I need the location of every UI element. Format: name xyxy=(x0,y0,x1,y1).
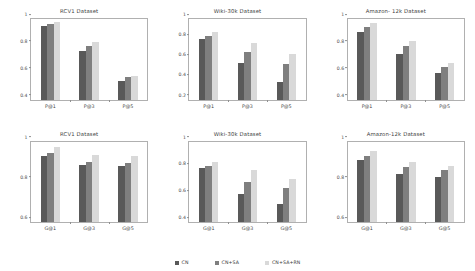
axes: 0.60.81G@1G@3G@5 xyxy=(347,141,465,224)
y-axis-tick-label: 0.8 xyxy=(337,38,348,43)
y-axis-tick-label: 0.6 xyxy=(337,215,348,220)
y-axis-tick-label: 0.8 xyxy=(179,32,190,37)
bar xyxy=(289,179,295,222)
x-axis-tick-mark xyxy=(70,100,71,102)
axes: 0.40.60.81P@1P@3P@5 xyxy=(347,18,465,101)
x-axis-tick-label: G@3 xyxy=(242,226,254,231)
y-axis-tick-label: 0.2 xyxy=(179,92,190,97)
y-axis-tick-label: 0.6 xyxy=(179,188,190,193)
x-axis-tick-mark xyxy=(228,222,229,224)
panel-grid: RCV1 Dataset 0.40.60.81P@1P@3P@5 Wiki-30… xyxy=(0,0,475,245)
x-axis-tick-mark xyxy=(109,100,110,102)
bar xyxy=(54,147,60,222)
axes: 0.60.81G@1G@3G@5 xyxy=(30,141,148,224)
legend-label: CN xyxy=(182,260,189,265)
x-axis-tick-label: G@3 xyxy=(83,226,95,231)
x-axis-tick-label: P@5 xyxy=(281,104,292,109)
y-axis-tick-label: 1 xyxy=(183,134,189,139)
x-axis-tick-mark xyxy=(70,222,71,224)
legend-item: CN+SA xyxy=(215,260,239,265)
x-axis-tick-label: P@3 xyxy=(242,104,253,109)
x-axis-tick-mark xyxy=(386,100,387,102)
legend-label: CN+SA+RN xyxy=(272,260,300,265)
plot-area: 0.60.81G@1G@3G@5 xyxy=(347,141,465,224)
bar xyxy=(131,76,137,100)
figure-root: RCV1 Dataset 0.40.60.81P@1P@3P@5 Wiki-30… xyxy=(0,0,475,271)
legend-swatch-icon xyxy=(215,261,219,265)
y-axis-tick-label: 0.6 xyxy=(337,65,348,70)
plot-area: 0.40.60.81P@1P@3P@5 xyxy=(30,18,148,101)
y-axis-tick-label: 1 xyxy=(25,134,31,139)
axes: 0.40.60.81G@1G@3G@5 xyxy=(188,141,306,224)
bar xyxy=(251,170,257,222)
y-axis-tick-label: 0.8 xyxy=(20,38,31,43)
bar xyxy=(54,22,60,99)
chart-panel-1: Wiki-30k Dataset 0.20.40.60.81P@1P@3P@5 xyxy=(158,0,316,123)
axes: 0.20.40.60.81P@1P@3P@5 xyxy=(188,18,306,101)
bar xyxy=(370,151,376,222)
x-axis-tick-mark xyxy=(228,100,229,102)
bar xyxy=(448,63,454,100)
y-axis-tick-label: 0.4 xyxy=(179,215,190,220)
axes: 0.40.60.81P@1P@3P@5 xyxy=(30,18,148,101)
legend: CNCN+SACN+SA+RN xyxy=(0,260,475,265)
x-axis-tick-label: P@3 xyxy=(400,104,411,109)
bar xyxy=(212,162,218,222)
x-axis-tick-label: P@1 xyxy=(362,104,373,109)
y-axis-tick-label: 0.4 xyxy=(179,72,190,77)
x-axis-tick-label: P@3 xyxy=(84,104,95,109)
y-axis-tick-label: 0.4 xyxy=(337,92,348,97)
y-axis-tick-label: 0.6 xyxy=(20,65,31,70)
x-axis-tick-label: P@5 xyxy=(123,104,134,109)
y-axis-tick-label: 0.6 xyxy=(20,215,31,220)
y-axis-tick-label: 0.8 xyxy=(179,161,190,166)
x-axis-tick-label: G@5 xyxy=(122,226,134,231)
bar xyxy=(289,54,295,99)
plot-area: 0.40.60.81P@1P@3P@5 xyxy=(347,18,465,101)
bar xyxy=(370,23,376,99)
x-axis-tick-mark xyxy=(267,222,268,224)
y-axis-tick-label: 0.8 xyxy=(20,174,31,179)
bar xyxy=(448,166,454,222)
plot-area: 0.20.40.60.81P@1P@3P@5 xyxy=(188,18,306,101)
x-axis-tick-mark xyxy=(267,100,268,102)
legend-label: CN+SA xyxy=(222,260,239,265)
chart-panel-0: RCV1 Dataset 0.40.60.81P@1P@3P@5 xyxy=(0,0,158,123)
x-axis-tick-label: P@1 xyxy=(45,104,56,109)
x-axis-tick-label: P@1 xyxy=(203,104,214,109)
bar xyxy=(92,42,98,99)
bar xyxy=(92,155,98,222)
x-axis-tick-mark xyxy=(109,222,110,224)
x-axis-tick-label: G@5 xyxy=(439,226,451,231)
x-axis-tick-label: G@1 xyxy=(361,226,373,231)
y-axis-tick-label: 0.8 xyxy=(337,174,348,179)
chart-panel-5: Amazon-12k Dataset 0.60.81G@1G@3G@5 xyxy=(317,123,475,246)
chart-panel-3: RCV1 Dataset 0.60.81G@1G@3G@5 xyxy=(0,123,158,246)
y-axis-tick-label: 1 xyxy=(25,12,31,17)
x-axis-tick-label: G@1 xyxy=(45,226,57,231)
x-axis-tick-label: P@5 xyxy=(439,104,450,109)
bar xyxy=(251,43,257,99)
legend-swatch-icon xyxy=(175,261,179,265)
y-axis-tick-label: 1 xyxy=(183,12,189,17)
bar xyxy=(409,41,415,99)
legend-swatch-icon xyxy=(265,261,269,265)
x-axis-tick-label: G@5 xyxy=(280,226,292,231)
bar xyxy=(131,156,137,222)
y-axis-tick-label: 1 xyxy=(341,12,347,17)
y-axis-tick-label: 0.6 xyxy=(179,52,190,57)
x-axis-tick-mark xyxy=(425,100,426,102)
x-axis-tick-label: G@1 xyxy=(203,226,215,231)
x-axis-tick-mark xyxy=(425,222,426,224)
bar xyxy=(212,32,218,99)
y-axis-tick-label: 1 xyxy=(341,134,347,139)
plot-area: 0.60.81G@1G@3G@5 xyxy=(30,141,148,224)
bar xyxy=(409,162,415,222)
legend-item: CN xyxy=(175,260,189,265)
legend-item: CN+SA+RN xyxy=(265,260,300,265)
x-axis-tick-label: G@3 xyxy=(400,226,412,231)
chart-panel-4: Wiki-30k Dataset 0.40.60.81G@1G@3G@5 xyxy=(158,123,316,246)
y-axis-tick-label: 0.4 xyxy=(20,92,31,97)
chart-panel-2: Amazon- 12k Dataset 0.40.60.81P@1P@3P@5 xyxy=(317,0,475,123)
x-axis-tick-mark xyxy=(386,222,387,224)
